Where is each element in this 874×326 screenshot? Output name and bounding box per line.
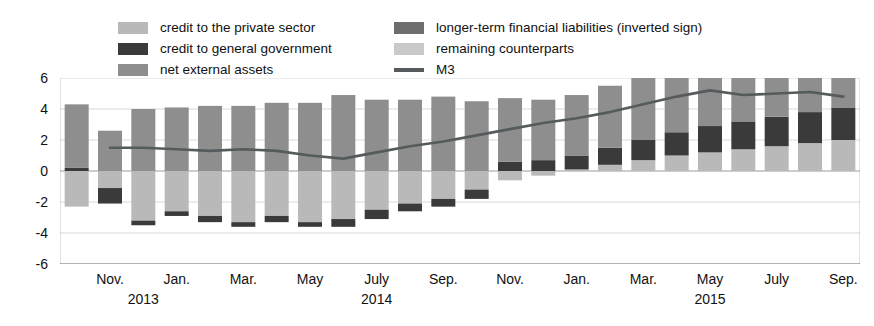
y-axis-tick-label: 0: [40, 164, 48, 178]
bar-stack: [265, 103, 289, 222]
legend-item: longer-term financial liabilities (inver…: [394, 18, 702, 37]
bar-segment: [598, 165, 622, 171]
bar-segment: [765, 146, 789, 171]
bar-segment: [431, 97, 455, 171]
bar-segment: [731, 149, 755, 171]
bar-segment: [398, 204, 422, 212]
bar-stack: [165, 107, 189, 216]
bar-segment: [365, 171, 389, 210]
bar-segment: [798, 143, 822, 171]
bar-segment: [665, 78, 689, 132]
y-axis-tick-label: 2: [40, 133, 48, 147]
bar-segment: [198, 216, 222, 222]
bar-segment: [565, 169, 589, 171]
bar-segment: [765, 78, 789, 117]
bar-segment: [131, 109, 155, 171]
x-axis-year-label: 2015: [694, 292, 725, 307]
bar-segment: [431, 171, 455, 199]
legend-swatch-longer-term-financial-liabilities: [394, 22, 424, 34]
bar-segment: [365, 100, 389, 171]
legend-label-credit-general-government: credit to general government: [160, 42, 332, 56]
bar-segment: [65, 171, 89, 207]
bar-segment: [698, 78, 722, 126]
bar-segment: [698, 152, 722, 171]
bar-stack: [598, 86, 622, 171]
bar-segment: [831, 78, 855, 107]
x-axis-labels: Nov.Jan.Mar.MayJulySep.Nov.Jan.Mar.MayJu…: [60, 264, 860, 326]
bar-segment: [98, 188, 122, 204]
bar-segment: [98, 131, 122, 171]
x-axis-tick-label: July: [364, 272, 389, 287]
chart-root: credit to the private sector credit to g…: [0, 0, 874, 326]
bar-segment: [331, 219, 355, 227]
bar-stack: [398, 100, 422, 212]
bar-segment: [798, 78, 822, 112]
legend-swatch-m3-line: [394, 68, 424, 72]
bar-segment: [565, 156, 589, 170]
bar-segment: [198, 171, 222, 216]
bar-segment: [198, 106, 222, 171]
bar-stack: [731, 78, 755, 171]
x-axis-year-label: 2014: [361, 292, 392, 307]
bar-segment: [398, 100, 422, 171]
legend-label-longer-term-financial-liabilities: longer-term financial liabilities (inver…: [436, 21, 702, 35]
bar-segment: [365, 210, 389, 219]
legend-item: M3: [394, 60, 702, 79]
bar-segment: [298, 103, 322, 171]
bar-stack: [65, 104, 89, 206]
bar-segment: [498, 171, 522, 180]
bar-stack: [198, 106, 222, 222]
chart-legend: credit to the private sector credit to g…: [0, 0, 874, 78]
bar-segment: [298, 222, 322, 227]
bar-segment: [531, 100, 555, 160]
bar-segment: [298, 171, 322, 222]
x-axis-tick-label: July: [764, 272, 789, 287]
x-axis-tick-label: Nov.: [96, 272, 124, 287]
y-axis-tick-label: 4: [40, 102, 48, 116]
bar-segment: [465, 190, 489, 199]
bar-segment: [331, 171, 355, 219]
y-axis-tick-label: -4: [36, 226, 48, 240]
legend-item: net external assets: [118, 60, 332, 79]
bar-stack: [231, 106, 255, 227]
bar-segment: [731, 78, 755, 121]
legend-label-net-external-assets: net external assets: [160, 63, 273, 77]
x-axis-year-label: 2013: [128, 292, 159, 307]
chart-canvas: [60, 78, 860, 264]
x-axis-tick-label: Nov.: [496, 272, 524, 287]
bar-segment: [765, 117, 789, 146]
bar-segment: [598, 148, 622, 165]
legend-item: credit to the private sector: [118, 18, 332, 37]
bar-segment: [231, 171, 255, 222]
bar-segment: [165, 107, 189, 171]
x-axis-tick-label: Mar.: [630, 272, 657, 287]
bar-segment: [831, 107, 855, 140]
legend-item: remaining counterparts: [394, 39, 702, 58]
bar-stack: [331, 95, 355, 227]
y-axis-tick-label: -6: [36, 257, 48, 271]
bar-segment: [565, 95, 589, 155]
legend-label-credit-private-sector: credit to the private sector: [160, 21, 315, 35]
bar-stack: [831, 78, 855, 171]
bar-stack: [431, 97, 455, 207]
bar-segment: [831, 140, 855, 171]
bar-segment: [665, 132, 689, 155]
bar-stack: [131, 109, 155, 225]
legend-column-left: credit to the private sector credit to g…: [118, 18, 332, 81]
x-axis-tick-label: Sep.: [429, 272, 458, 287]
legend-swatch-credit-private-sector: [118, 22, 148, 34]
bar-segment: [665, 156, 689, 172]
bar-segment: [631, 78, 655, 140]
bar-stack: [465, 101, 489, 199]
bar-stack: [298, 103, 322, 227]
bar-segment: [165, 211, 189, 216]
bar-segment: [65, 168, 89, 171]
bar-stack: [498, 98, 522, 180]
bar-segment: [598, 86, 622, 148]
bar-segment: [465, 171, 489, 190]
bar-segment: [531, 171, 555, 176]
bar-stack: [631, 78, 655, 171]
bar-segment: [731, 121, 755, 149]
x-axis-tick-label: Jan.: [163, 272, 189, 287]
bar-segment: [431, 199, 455, 207]
